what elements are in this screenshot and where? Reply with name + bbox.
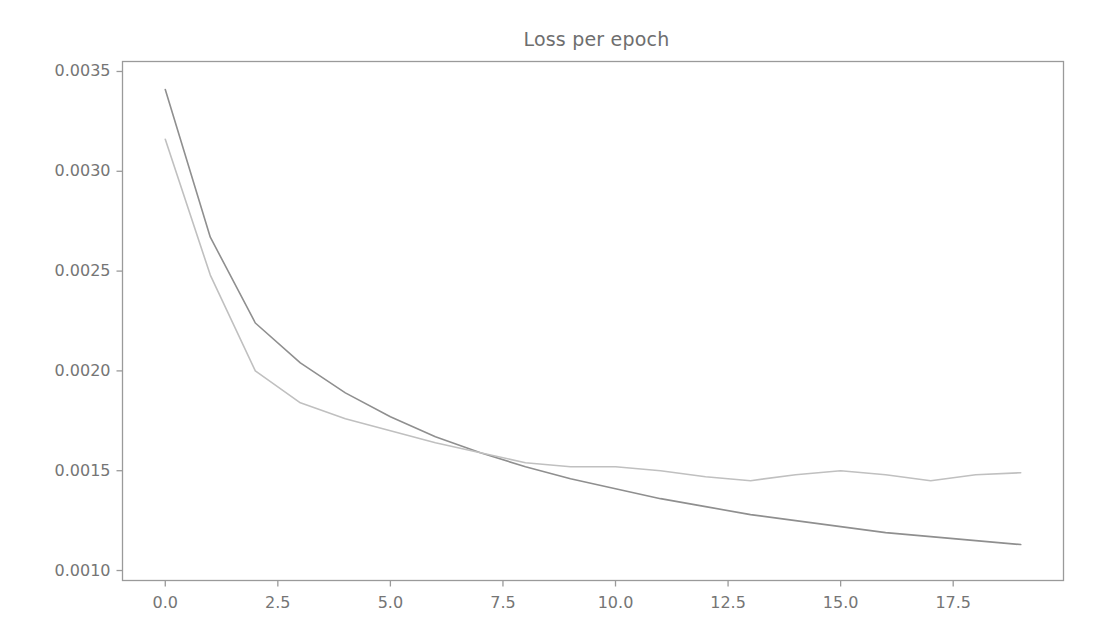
plot-area (0, 0, 1103, 644)
y-tick-label: 0.0035 (10, 61, 111, 80)
figure-canvas: Loss per epoch 0.00350.00300.00250.00200… (0, 0, 1103, 644)
y-tick-label: 0.0010 (10, 561, 111, 580)
y-tick-label: 0.0025 (10, 261, 111, 280)
x-tick-label: 17.5 (908, 593, 998, 612)
x-tick-label: 15.0 (796, 593, 886, 612)
y-tick-label: 0.0015 (10, 461, 111, 480)
data-series-group (165, 89, 1020, 544)
x-axis-ticks (165, 581, 953, 587)
x-tick-label: 12.5 (683, 593, 773, 612)
x-tick-label: 0.0 (120, 593, 210, 612)
y-tick-label: 0.0030 (10, 161, 111, 180)
x-tick-label: 2.5 (233, 593, 323, 612)
x-tick-label: 7.5 (458, 593, 548, 612)
series-line-validation-loss (165, 139, 1020, 480)
axes-frame (123, 62, 1064, 581)
y-axis-ticks (117, 71, 123, 570)
y-tick-label: 0.0020 (10, 361, 111, 380)
x-tick-label: 10.0 (571, 593, 661, 612)
x-tick-label: 5.0 (345, 593, 435, 612)
